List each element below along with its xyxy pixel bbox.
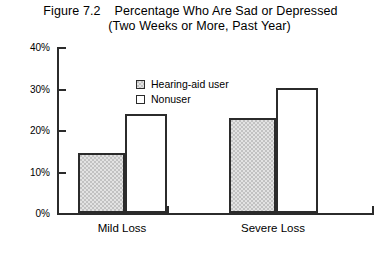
y-tick-10	[59, 172, 66, 174]
legend-swatch-nonuser-icon	[136, 95, 145, 104]
y-tick-label-10: 10%	[30, 168, 50, 178]
y-tick-30	[59, 89, 66, 91]
y-tick-label-40: 40%	[30, 43, 50, 53]
chart-legend: Hearing-aid user Nonuser	[136, 78, 229, 108]
x-category-label-mild-loss: Mild Loss	[98, 222, 147, 235]
y-tick-label-30: 30%	[30, 85, 50, 95]
x-axis-line	[57, 213, 374, 215]
x-tick-right	[372, 206, 374, 213]
x-category-label-severe-loss: Severe Loss	[241, 222, 305, 235]
chart-title-main: Percentage Who Are Sad or Depressed	[115, 4, 338, 18]
legend-label-hearing-aid-user: Hearing-aid user	[151, 79, 229, 90]
bar-mild-loss-nonuser	[125, 114, 167, 213]
figure-chart: Figure 7.2Percentage Who Are Sad or Depr…	[0, 0, 381, 256]
y-tick-label-0: 0%	[36, 209, 50, 219]
figure-label: Figure 7.2	[43, 4, 114, 19]
y-tick-label-20: 20%	[30, 126, 50, 136]
y-tick-20	[59, 130, 66, 132]
legend-swatch-hearing-aid-user-icon	[136, 80, 145, 89]
bar-severe-loss-nonuser	[276, 88, 318, 213]
plot-area: 40% 30% 20% 10% 0%	[57, 47, 374, 215]
x-tick-mid	[167, 206, 169, 213]
bar-mild-loss-hearing-aid-user	[78, 153, 125, 213]
bar-severe-loss-hearing-aid-user	[229, 118, 276, 213]
legend-item-nonuser: Nonuser	[136, 93, 229, 106]
chart-title-line-1: Figure 7.2Percentage Who Are Sad or Depr…	[0, 4, 381, 19]
chart-title-block: Figure 7.2Percentage Who Are Sad or Depr…	[0, 4, 381, 34]
chart-subtitle: (Two Weeks or More, Past Year)	[0, 19, 381, 34]
legend-item-hearing-aid-user: Hearing-aid user	[136, 78, 229, 91]
y-tick-40	[59, 47, 66, 49]
legend-label-nonuser: Nonuser	[151, 94, 191, 105]
